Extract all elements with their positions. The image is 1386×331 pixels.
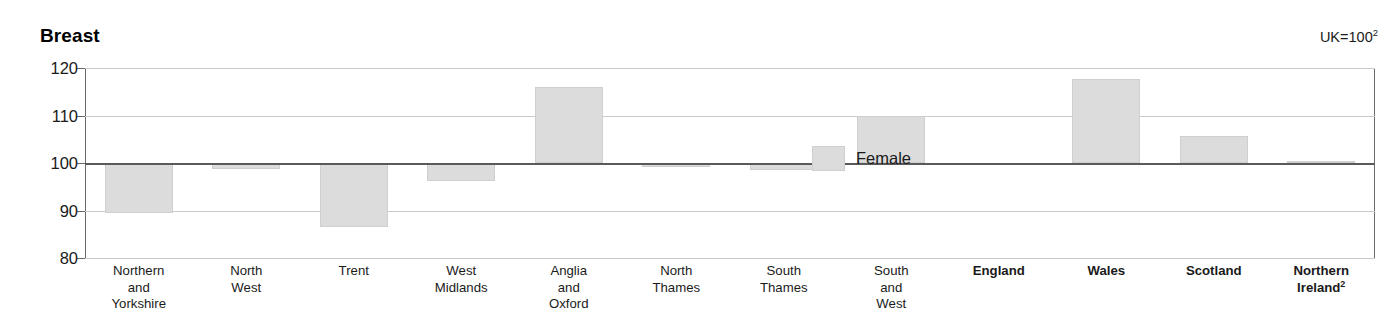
gridline-80 (85, 258, 1375, 259)
uk-note-text: UK=100 (1320, 29, 1373, 45)
x-label-northern-and-yorkshire: Northern and Yorkshire (85, 263, 193, 313)
chart-legend: Female (812, 146, 911, 171)
y-axis-label-110: 110 (18, 106, 78, 125)
gridline-120 (85, 68, 1375, 69)
y-tick-120 (77, 68, 85, 69)
x-label-anglia-and-oxford: Anglia and Oxford (515, 263, 623, 313)
y-axis-label-100: 100 (18, 154, 78, 173)
y-tick-100 (77, 163, 85, 164)
plot-area: Female (85, 68, 1375, 258)
bar-trent (320, 163, 388, 227)
bar-scotland (1180, 136, 1248, 163)
y-tick-110 (77, 116, 85, 117)
chart-title: Breast (40, 25, 100, 47)
legend-swatch-female (812, 146, 845, 171)
gridline-100-baseline (85, 163, 1375, 165)
x-label-south-and-west: South and West (838, 263, 946, 313)
x-label-trent: Trent (300, 263, 408, 280)
y-tick-80 (77, 258, 85, 259)
y-axis-label-80: 80 (18, 249, 78, 268)
x-label-wales: Wales (1053, 263, 1161, 280)
bar-west-midlands (427, 163, 495, 181)
x-label-northern-ireland-superscript: 2 (1340, 278, 1345, 288)
bar-wales (1072, 79, 1140, 163)
gridline-110 (85, 116, 1375, 117)
x-label-west-midlands: West Midlands (408, 263, 516, 296)
x-label-england: England (945, 263, 1053, 280)
breast-incidence-bar-chart: Breast UK=1002 Female 120 110 100 90 8 (0, 0, 1386, 331)
bar-anglia-and-oxford (535, 87, 603, 163)
y-axis-label-90: 90 (18, 201, 78, 220)
y-tick-90 (77, 211, 85, 212)
x-label-south-thames: South Thames (730, 263, 838, 296)
x-label-northern-ireland: Northern Ireland2 (1268, 263, 1376, 296)
x-label-scotland: Scotland (1160, 263, 1268, 280)
x-label-north-thames: North Thames (623, 263, 731, 296)
uk-baseline-note: UK=1002 (1320, 29, 1378, 45)
uk-note-superscript: 2 (1373, 27, 1378, 38)
bar-northern-and-yorkshire (105, 163, 173, 213)
x-axis-labels: Northern and Yorkshire North West Trent … (85, 263, 1375, 329)
y-axis-label-120: 120 (18, 59, 78, 78)
gridline-90 (85, 211, 1375, 212)
x-label-north-west: North West (193, 263, 301, 296)
legend-label-female: Female (856, 149, 911, 168)
